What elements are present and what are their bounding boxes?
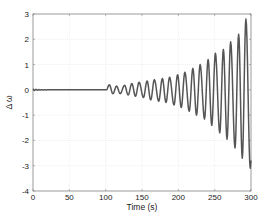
y-tick-label: -1 [22,111,30,120]
x-tick-label: 0 [31,193,36,202]
line-chart: 050100150200250300-4-3-2-10123 Time (s) … [0,0,268,221]
y-tick-label: 0 [25,86,30,95]
y-tick-label: -2 [22,136,30,145]
x-tick-label: 50 [65,193,74,202]
axis-ticks: 050100150200250300-4-3-2-10123 [22,10,258,202]
x-tick-label: 150 [135,193,149,202]
x-tick-label: 200 [172,193,186,202]
y-tick-label: 2 [25,35,30,44]
x-tick-label: 300 [244,193,258,202]
x-axis-label: Time (s) [127,202,158,212]
y-tick-label: 3 [25,10,30,19]
x-tick-label: 250 [208,193,222,202]
delta-omega-series-line [33,19,251,168]
y-axis-label: Δ ω [4,95,14,110]
y-tick-label: -3 [22,162,30,171]
x-tick-label: 100 [99,193,113,202]
y-tick-label: 1 [25,61,30,70]
y-tick-label: -4 [22,187,30,196]
